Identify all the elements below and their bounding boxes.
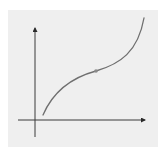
inflection-point xyxy=(94,69,98,73)
function-curve xyxy=(43,18,144,115)
function-graph xyxy=(0,0,159,153)
